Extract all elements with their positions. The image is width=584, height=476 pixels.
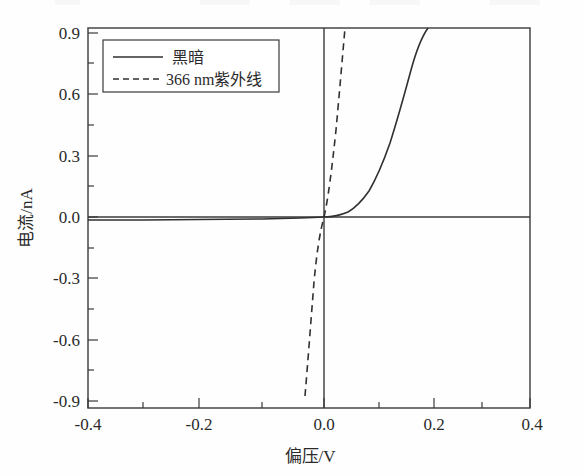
x-tick-label-2: 0.0 <box>313 415 334 434</box>
legend-label-uv: 366 nm紫外线 <box>166 71 262 88</box>
x-axis-major-ticks <box>88 398 530 408</box>
y-tick-label-1: 0.6 <box>59 85 80 104</box>
y-tick-label-6: -0.9 <box>53 392 80 411</box>
chart-figure: 0.9 0.6 0.3 0.0 -0.3 -0.6 -0.9 -0.4 -0.2… <box>0 0 584 476</box>
iv-characteristic-chart: 0.9 0.6 0.3 0.0 -0.3 -0.6 -0.9 -0.4 -0.2… <box>0 0 584 476</box>
x-tick-label-0: -0.4 <box>75 415 102 434</box>
x-axis-minor-ticks <box>143 402 482 408</box>
y-tick-label-4: -0.3 <box>53 269 80 288</box>
y-axis-major-ticks <box>88 33 98 401</box>
x-tick-label-4: 0.4 <box>521 415 543 434</box>
x-tick-label-3: 0.2 <box>423 415 444 434</box>
y-axis-title: 电流/nA <box>17 188 36 248</box>
y-tick-label-2: 0.3 <box>59 147 80 166</box>
series-uv-curve <box>305 28 345 396</box>
legend-label-dark: 黑暗 <box>172 49 204 66</box>
chart-legend: 黑暗 366 nm紫外线 <box>103 40 279 92</box>
x-tick-label-1: -0.2 <box>186 415 213 434</box>
y-tick-label-3: 0.0 <box>59 208 80 227</box>
y-tick-label-0: 0.9 <box>59 24 80 43</box>
y-tick-label-5: -0.6 <box>53 331 80 350</box>
x-axis-title: 偏压/V <box>285 447 337 466</box>
